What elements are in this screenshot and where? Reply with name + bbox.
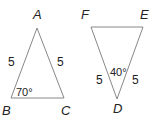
triangle-def-shape bbox=[91, 27, 143, 99]
side-label-ac: 5 bbox=[57, 55, 64, 69]
side-label-ed: 5 bbox=[132, 73, 139, 87]
side-label-fd: 5 bbox=[96, 73, 103, 87]
vertex-label-c: C bbox=[61, 103, 71, 118]
triangle-def: F E D 5 5 40° bbox=[81, 7, 149, 116]
vertex-label-d: D bbox=[113, 101, 122, 116]
vertex-label-e: E bbox=[140, 7, 149, 22]
angle-label-d: 40° bbox=[110, 66, 127, 78]
geometry-figure: A B C 5 5 70° F E D 5 5 40° bbox=[0, 0, 154, 122]
vertex-label-f: F bbox=[81, 7, 90, 22]
side-label-ab: 5 bbox=[8, 55, 15, 69]
angle-label-b: 70° bbox=[16, 86, 33, 98]
vertex-label-a: A bbox=[32, 7, 42, 22]
vertex-label-b: B bbox=[2, 103, 11, 118]
triangle-abc: A B C 5 5 70° bbox=[2, 7, 71, 118]
